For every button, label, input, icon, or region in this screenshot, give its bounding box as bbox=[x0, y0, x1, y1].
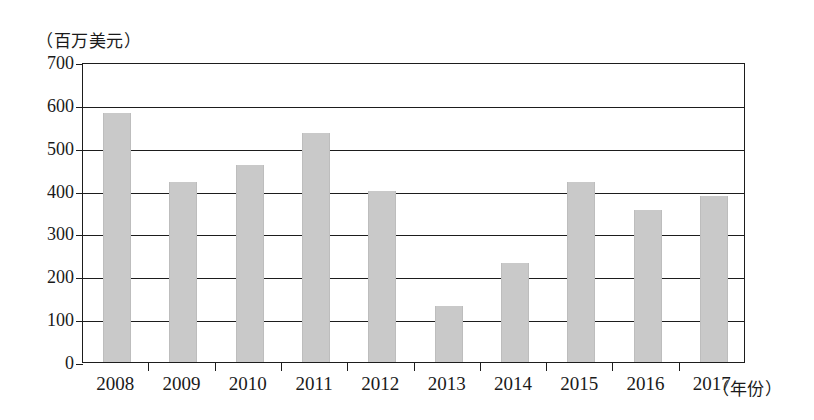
bar-2011 bbox=[302, 133, 330, 362]
bar-2017 bbox=[700, 196, 728, 362]
x-axis-tick-mark bbox=[347, 363, 348, 371]
bar-2016 bbox=[634, 210, 662, 362]
y-axis-tick-label: 500 bbox=[14, 140, 74, 158]
y-axis-tick-mark bbox=[76, 64, 83, 65]
gridline bbox=[83, 107, 744, 108]
x-axis-tick-mark bbox=[546, 363, 547, 371]
y-axis-tick-mark bbox=[76, 193, 83, 194]
y-axis-tick-mark bbox=[76, 364, 83, 365]
y-axis-tick-label: 100 bbox=[14, 311, 74, 329]
bar-chart-figure: （百万美元） 7006005004003002001000 2008200920… bbox=[0, 0, 814, 420]
bar-2009 bbox=[169, 182, 197, 362]
x-axis-tick-mark bbox=[414, 363, 415, 371]
y-axis-tick-label: 200 bbox=[14, 268, 74, 286]
x-axis-tick-mark bbox=[148, 363, 149, 371]
y-axis-tick-mark bbox=[76, 235, 83, 236]
plot-area bbox=[82, 63, 745, 363]
y-axis-tick-mark bbox=[76, 278, 83, 279]
bar-2015 bbox=[567, 182, 595, 362]
y-axis-tick-label: 600 bbox=[14, 97, 74, 115]
x-axis-tick-mark bbox=[612, 363, 613, 371]
x-axis-tick-mark bbox=[281, 363, 282, 371]
y-axis-tick-label: 400 bbox=[14, 183, 74, 201]
x-axis-tick-mark bbox=[679, 363, 680, 371]
x-axis-tick-mark bbox=[215, 363, 216, 371]
y-axis-tick-label-group: 7006005004003002001000 bbox=[8, 63, 74, 363]
bar-2010 bbox=[236, 165, 264, 362]
x-axis-unit-label: （年份） bbox=[712, 375, 782, 400]
bar-2012 bbox=[368, 191, 396, 362]
bar-2008 bbox=[103, 113, 131, 362]
y-axis-unit-label: （百万美元） bbox=[36, 27, 141, 52]
y-axis-tick-label: 0 bbox=[14, 354, 74, 372]
y-axis-tick-mark bbox=[76, 321, 83, 322]
y-axis-tick-mark bbox=[76, 150, 83, 151]
y-axis-tick-label: 300 bbox=[14, 225, 74, 243]
y-axis-tick-mark bbox=[76, 107, 83, 108]
bar-2013 bbox=[435, 306, 463, 362]
y-axis-tick-label: 700 bbox=[14, 54, 74, 72]
gridline bbox=[83, 150, 744, 151]
x-axis-tick-mark bbox=[480, 363, 481, 371]
bar-2014 bbox=[501, 263, 529, 362]
